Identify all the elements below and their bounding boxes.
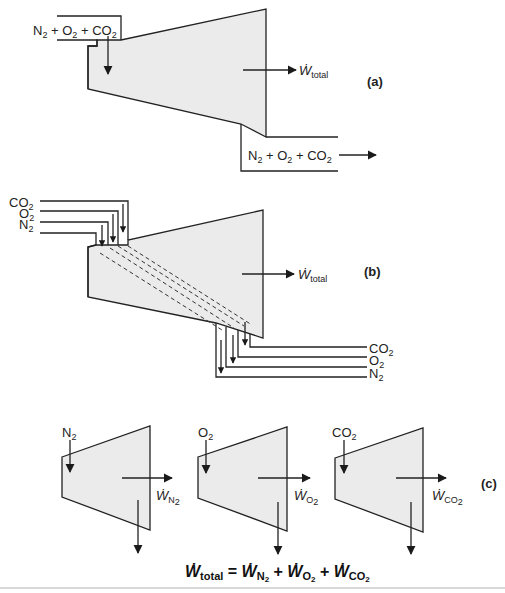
turbine-c-n2-inlet-label: N2 xyxy=(62,425,76,442)
turbine-c-n2: N2 ẆN2 xyxy=(62,425,180,553)
turbine-c-o2-work-label: ẆO2 xyxy=(294,488,318,507)
turbine-c-o2: O2 ẆO2 xyxy=(198,425,318,554)
panel-c-label: (c) xyxy=(481,476,497,491)
panel-b-label: (b) xyxy=(364,264,381,279)
turbine-b-inlet-co2-channel xyxy=(40,201,128,240)
turbine-c-o2-inlet-label: O2 xyxy=(198,425,213,442)
turbine-c-n2-work-label: ẆN2 xyxy=(156,488,180,507)
panel-c-individual-turbines: N2 ẆN2 O2 ẆO2 CO2 ẆCO2 (c) xyxy=(62,425,497,554)
work-sum-equation: Ẇtotal = ẆN2 + ẆO2 + ẆCO2 xyxy=(185,563,370,584)
turbine-b-body xyxy=(88,210,263,338)
turbine-b-inlet-o2-channel xyxy=(40,211,118,245)
panel-b-separate-gases-turbine: CO2 O2 N2 CO2 O2 N2 Ẇtotal (b) xyxy=(9,195,394,383)
panel-a-mixture-turbine: N2 + O2 + CO2 N2 + O2 + CO2 Ẇtotal (a) xyxy=(33,9,383,171)
turbine-diagram: N2 + O2 + CO2 N2 + O2 + CO2 Ẇtotal (a) xyxy=(0,0,505,593)
turbine-a-inlet-label: N2 + O2 + CO2 xyxy=(33,23,117,40)
turbine-a-outlet-label: N2 + O2 + CO2 xyxy=(248,148,332,165)
turbine-b-work-label: Ẇtotal xyxy=(298,267,327,284)
turbine-c-co2: CO2 ẆCO2 xyxy=(332,425,463,554)
bottom-divider xyxy=(0,587,505,589)
turbine-a-body xyxy=(88,9,266,137)
turbine-a-work-label: Ẇtotal xyxy=(299,63,328,80)
panel-a-label: (a) xyxy=(367,74,383,89)
turbine-c-co2-work-label: ẆCO2 xyxy=(432,488,463,507)
turbine-c-co2-inlet-label: CO2 xyxy=(332,425,357,442)
